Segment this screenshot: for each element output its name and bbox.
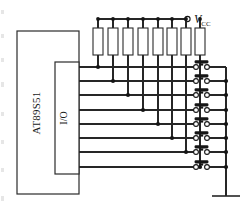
junction-r7-line7 (184, 150, 188, 154)
resistor-3-vcc-junction (126, 17, 130, 21)
switch-4-right-terminal (205, 108, 210, 113)
pullup-resistor-bank (93, 17, 205, 167)
switch-5-actuator-stem (200, 120, 203, 122)
resistor-2-body (108, 28, 118, 55)
switch-7-contact-bar (195, 145, 209, 148)
switch-6[interactable] (194, 131, 226, 140)
ground-bus (224, 67, 228, 196)
ground-bus-junction-7 (224, 150, 228, 154)
switch-5[interactable] (194, 117, 226, 126)
junction-r3-line3 (126, 93, 130, 97)
resistor-6 (167, 17, 177, 138)
switch-1-contact-bar (195, 60, 209, 63)
schematic-canvas: AT89S51 I/O VCC (0, 0, 246, 212)
resistor-7-body (181, 28, 191, 55)
resistor-8-vcc-junction (198, 17, 202, 21)
ground-bus-junction-3 (224, 93, 228, 97)
switch-1[interactable] (194, 60, 226, 69)
switch-7-left-terminal (194, 150, 199, 155)
resistor-8-body (195, 28, 205, 55)
switch-3-right-terminal (205, 93, 210, 98)
junction-r1-line1 (96, 65, 100, 69)
resistor-6-body (167, 28, 177, 55)
resistor-2-vcc-junction (111, 17, 115, 21)
ground-bus-junction-5 (224, 122, 228, 126)
resistor-3 (123, 17, 133, 95)
vcc-label: VCC (194, 12, 211, 28)
resistor-1 (93, 17, 103, 67)
resistor-5-body (153, 28, 163, 55)
io-signal-lines (79, 67, 196, 167)
switch-5-left-terminal (194, 122, 199, 127)
switch-3-left-terminal (194, 93, 199, 98)
switch-3-contact-bar (195, 88, 209, 91)
switch-6-actuator-stem (200, 134, 203, 136)
switch-2-actuator-stem (200, 77, 203, 79)
junction-r5-line5 (156, 122, 160, 126)
resistor-7 (181, 17, 191, 152)
junction-r4-line4 (141, 108, 145, 112)
switch-8-contact-bar (195, 160, 209, 163)
switch-2-left-terminal (194, 79, 199, 84)
circuit-diagram-page: AT89S51 I/O VCC (0, 0, 246, 212)
switch-8[interactable] (194, 160, 226, 169)
resistor-4-body (138, 28, 148, 55)
junction-r6-line6 (170, 136, 174, 140)
switch-6-left-terminal (194, 136, 199, 141)
resistor-5-vcc-junction (156, 17, 160, 21)
ground-bus-junction-4 (224, 108, 228, 112)
switch-8-right-terminal (205, 165, 210, 170)
resistor-1-body (93, 28, 103, 55)
resistor-4 (138, 17, 148, 110)
switch-3-actuator-stem (200, 91, 203, 93)
switch-2-right-terminal (205, 79, 210, 84)
switch-7[interactable] (194, 145, 226, 154)
ground-bus-junction-6 (224, 136, 228, 140)
junction-r2-line2 (111, 79, 115, 83)
switch-6-right-terminal (205, 136, 210, 141)
switch-1-actuator-stem (200, 63, 203, 65)
switch-4-left-terminal (194, 108, 199, 113)
ground-bus-junction-8 (224, 165, 228, 169)
resistor-4-vcc-junction (141, 17, 145, 21)
switch-4-actuator-stem (200, 106, 203, 108)
switch-1-left-terminal (194, 65, 199, 70)
chip-label: AT89S51 (30, 92, 42, 135)
resistor-2 (108, 17, 118, 81)
switch-5-contact-bar (195, 117, 209, 120)
switch-8-left-terminal (194, 165, 199, 170)
resistor-3-body (123, 28, 133, 55)
vcc-subscript: CC (201, 20, 211, 28)
switch-6-contact-bar (195, 131, 209, 134)
switch-7-right-terminal (205, 150, 210, 155)
switch-2-contact-bar (195, 74, 209, 77)
switch-2[interactable] (194, 74, 226, 83)
switch-1-right-terminal (205, 65, 210, 70)
scan-edge-artifacts (1, 10, 4, 201)
resistor-6-vcc-junction (170, 17, 174, 21)
switch-7-actuator-stem (200, 148, 203, 150)
switch-4[interactable] (194, 103, 226, 112)
resistor-1-vcc-junction (96, 17, 100, 21)
io-port-block: I/O (55, 62, 79, 174)
switch-3[interactable] (194, 88, 226, 97)
resistor-7-vcc-junction (184, 17, 188, 21)
io-port-label: I/O (58, 111, 69, 124)
pushbutton-switch-bank (194, 60, 226, 169)
resistor-5 (153, 17, 163, 124)
switch-5-right-terminal (205, 122, 210, 127)
switch-8-actuator-stem (200, 163, 203, 165)
switch-4-contact-bar (195, 103, 209, 106)
ground-bus-junction-2 (224, 79, 228, 83)
